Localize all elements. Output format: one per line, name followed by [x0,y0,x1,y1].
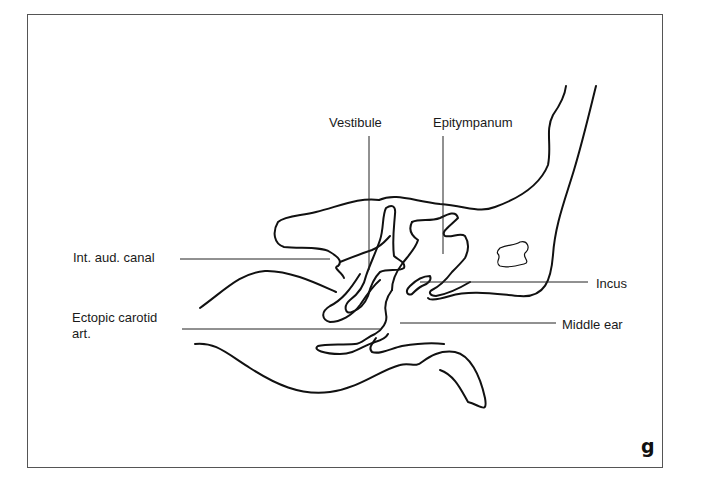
epitympanum-shape [412,213,470,296]
bone-island [497,242,528,267]
label-int-aud-canal: Int. aud. canal [73,250,155,266]
ear-anatomy-drawing [0,0,713,486]
label-middle-ear: Middle ear [562,317,623,333]
label-ectopic-carotid-line1: Ectopic carotid [72,310,157,326]
label-ectopic-carotid: Ectopic carotid art. [72,310,157,342]
label-ectopic-carotid-line2: art. [72,326,157,342]
petrous-bone-outline [275,199,379,278]
vestibule-shape [346,206,405,313]
label-vestibule: Vestibule [329,115,382,131]
incus-shape [407,276,431,295]
label-incus: Incus [596,276,627,292]
label-epitympanum: Epitympanum [433,115,512,131]
panel-letter: g [641,435,655,457]
